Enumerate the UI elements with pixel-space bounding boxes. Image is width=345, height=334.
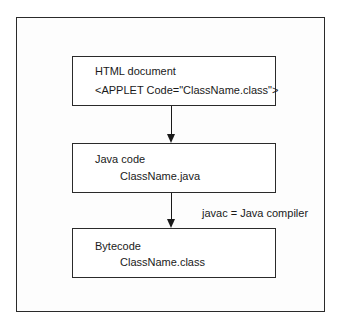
node-java-code-detail: ClassName.java xyxy=(120,170,200,183)
node-bytecode-detail: ClassName.class xyxy=(120,256,205,269)
edge-html-to-java-line xyxy=(171,106,172,135)
node-bytecode-title: Bytecode xyxy=(95,240,141,253)
node-java-code-title: Java code xyxy=(95,153,145,166)
node-bytecode xyxy=(72,228,276,278)
edge-java-to-bytecode-line xyxy=(171,193,172,220)
node-java-code xyxy=(72,143,276,193)
arrow-down-icon xyxy=(167,219,175,228)
node-html-document xyxy=(72,56,276,106)
arrow-down-icon xyxy=(167,134,175,143)
node-html-document-title: HTML document xyxy=(95,65,176,78)
edge-java-to-bytecode-label: javac = Java compiler xyxy=(202,207,308,220)
node-html-document-detail: <APPLET Code="ClassName.class"> xyxy=(95,84,278,97)
